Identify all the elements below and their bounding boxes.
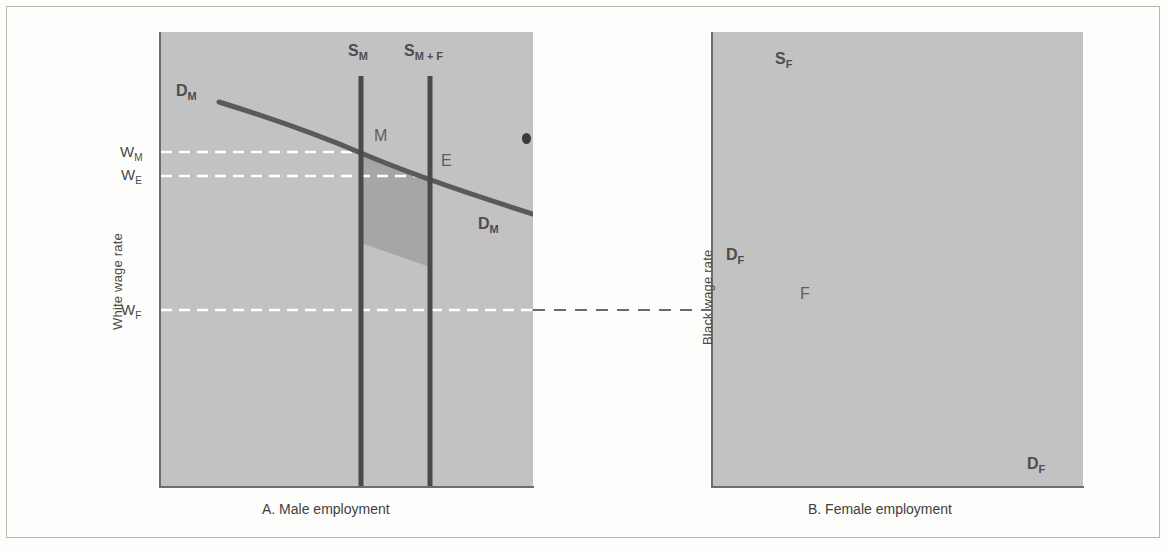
point-label-m: M xyxy=(374,127,387,145)
point-label-e: E xyxy=(441,152,452,170)
curve-label-sm: SM xyxy=(348,42,368,62)
scan-dot-artifact xyxy=(522,133,531,144)
curve-label-df-bottom: DF xyxy=(1027,455,1045,475)
curve-label-df-top-sub: F xyxy=(738,254,745,266)
curve-label-dm-bottom-sub: M xyxy=(490,223,499,235)
curve-label-df-top: DF xyxy=(726,246,744,266)
curve-label-dm-top-sub: M xyxy=(188,90,197,102)
shaded-welfare-region xyxy=(361,154,430,267)
curve-label-dm-bottom: DM xyxy=(478,215,499,235)
curve-label-smf: SM + F xyxy=(404,42,443,62)
caption-panel-b: B. Female employment xyxy=(808,501,952,517)
curve-label-df-bottom-sub: F xyxy=(1039,463,1046,475)
point-label-f: F xyxy=(800,285,810,303)
curve-label-sm-sub: M xyxy=(359,50,368,62)
curve-label-sf: SF xyxy=(775,50,792,70)
right-panel-axis-title: Black wage rate xyxy=(700,250,715,346)
curve-label-smf-sub: M + F xyxy=(415,50,443,62)
curve-label-sf-sub: F xyxy=(786,58,793,70)
right-panel-x-axis xyxy=(711,486,1084,488)
panel-female-employment xyxy=(712,32,1083,487)
figure-root: White wage rate WM WE WF xyxy=(0,0,1168,554)
curve-label-dm-top: DM xyxy=(176,82,197,102)
caption-panel-a: A. Male employment xyxy=(262,501,390,517)
